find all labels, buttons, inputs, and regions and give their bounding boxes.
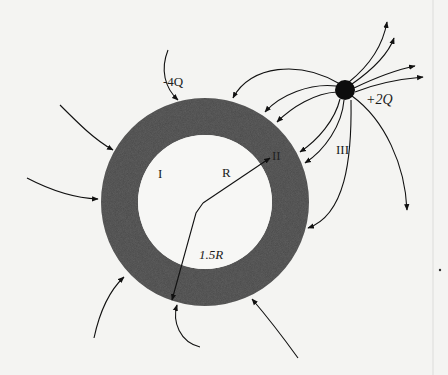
- speck-dot: [439, 269, 441, 271]
- field-line-bottom-right: [252, 299, 298, 358]
- region-II-label: II: [272, 149, 281, 162]
- field-line-bottom-left: [94, 277, 124, 338]
- region-III-label: III: [336, 143, 349, 156]
- point-charge: [335, 80, 355, 100]
- field-line-left-upper: [60, 105, 113, 150]
- diagram-canvas: -4Q +2Q I II III R 1.5R: [0, 0, 448, 375]
- field-line-left-lower: [27, 178, 98, 199]
- point-charge-label: +2Q: [366, 93, 393, 107]
- inner-radius-label: R: [222, 166, 231, 179]
- field-line-charge-to-shell-6: [308, 100, 351, 228]
- field-line-out-5: [352, 96, 407, 210]
- field-line-bottom-center: [176, 305, 200, 347]
- field-line-out-4: [355, 77, 423, 92]
- field-diagram: [0, 0, 448, 375]
- field-line-charge-to-shell-2: [265, 86, 336, 112]
- shell-charge-label: -4Q: [163, 75, 183, 88]
- field-line-out-2: [352, 38, 394, 84]
- field-line-charge-to-shell-4: [300, 99, 340, 152]
- region-I-label: I: [158, 167, 162, 180]
- outer-radius-label: 1.5R: [199, 248, 223, 261]
- field-line-out-1: [349, 22, 387, 82]
